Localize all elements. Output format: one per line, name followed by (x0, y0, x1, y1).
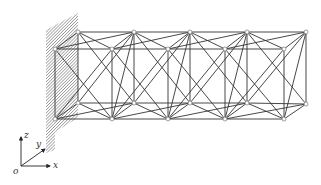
truss-node (188, 101, 192, 105)
truss-node (166, 47, 170, 51)
truss-node (304, 102, 308, 106)
axis-label-x: x (53, 160, 58, 170)
space-truss-diagram: z y x o (0, 0, 321, 185)
truss-member (225, 104, 306, 119)
truss-member (247, 103, 306, 104)
truss-node (304, 30, 308, 34)
truss-node (76, 101, 80, 105)
truss-node (132, 30, 136, 34)
truss-node (223, 117, 227, 121)
truss-node (53, 47, 57, 51)
truss-node (282, 47, 286, 51)
truss-member (190, 103, 225, 119)
axis-label-origin: o (13, 166, 19, 176)
axis-label-y: y (35, 139, 42, 149)
truss-member (190, 32, 225, 49)
truss-node (76, 30, 80, 34)
truss-node (166, 117, 170, 121)
truss-node (245, 30, 249, 34)
truss-members (55, 32, 306, 119)
truss-member (78, 32, 112, 49)
truss-member (78, 103, 112, 119)
truss-node (245, 101, 249, 105)
axis-label-z: z (23, 130, 29, 140)
truss-node (282, 117, 286, 121)
truss-member (247, 32, 284, 49)
truss-member (134, 32, 168, 49)
truss-member (247, 103, 284, 119)
truss-node (110, 47, 114, 51)
fixed-wall-support (46, 13, 78, 153)
truss-node (132, 101, 136, 105)
truss-node (223, 47, 227, 51)
truss-node (110, 117, 114, 121)
truss-member (134, 103, 168, 119)
truss-node (188, 30, 192, 34)
truss-node (53, 117, 57, 121)
